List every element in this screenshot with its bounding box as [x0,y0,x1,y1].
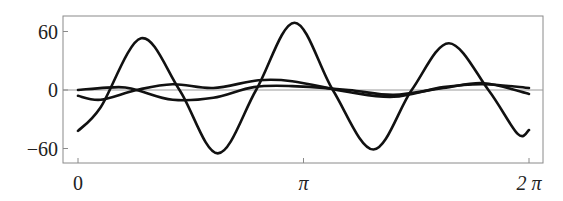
x-tick-label: π [298,172,309,194]
data-series [78,23,529,154]
y-tick-label: 0 [48,79,58,101]
x-tick-label: 0 [73,172,83,194]
y-axis-ticks: 600−60 [27,21,68,160]
y-tick-label: −60 [27,138,58,160]
x-tick-label: 2 π [516,172,542,194]
y-tick-label: 60 [38,21,58,43]
line-chart: 600−60 0π2 π [0,0,563,201]
